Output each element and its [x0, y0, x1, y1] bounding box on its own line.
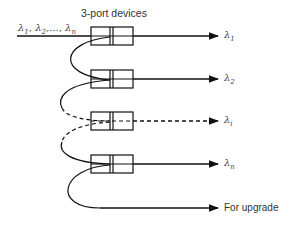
- loop-i-n: [62, 122, 110, 142]
- loop-upgrade: [68, 165, 110, 208]
- upgrade-label: For upgrade: [224, 202, 278, 213]
- device-1: [91, 27, 133, 45]
- loop-1-2: [71, 37, 110, 80]
- output-label-2: λ2: [224, 72, 235, 86]
- title-label: 3-port devices: [81, 7, 147, 19]
- input-wavelengths-label: λ1, λ2,..., λn: [18, 22, 76, 36]
- loop-2-i: [61, 80, 110, 108]
- output-label-i: λi: [224, 114, 233, 128]
- output-label-n: λn: [224, 157, 235, 171]
- output-label-1: λ1: [224, 29, 235, 43]
- device-2: [91, 70, 133, 88]
- device-n: [91, 155, 133, 173]
